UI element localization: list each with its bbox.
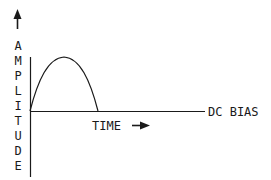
- arrow-right-icon: [132, 122, 150, 130]
- y-axis-letter: M: [12, 55, 24, 67]
- y-axis-letter: E: [12, 160, 24, 172]
- y-axis-letter: D: [12, 145, 24, 157]
- y-axis-letter: A: [12, 40, 24, 52]
- y-axis-letter: P: [12, 70, 24, 82]
- y-axis-letter: T: [12, 115, 24, 127]
- y-axis-letter: U: [12, 130, 24, 142]
- y-axis-letter: L: [12, 85, 24, 97]
- amplitude-pulse-curve: [30, 57, 98, 111]
- dc-bias-label: DC BIAS: [208, 106, 259, 118]
- diagram-canvas: A M P L I T U D E TIME DC BIAS: [0, 0, 271, 180]
- arrow-up-icon: [14, 9, 22, 29]
- x-axis-label: TIME: [92, 120, 121, 132]
- y-axis-letter: I: [12, 100, 24, 112]
- diagram-svg: [0, 0, 271, 180]
